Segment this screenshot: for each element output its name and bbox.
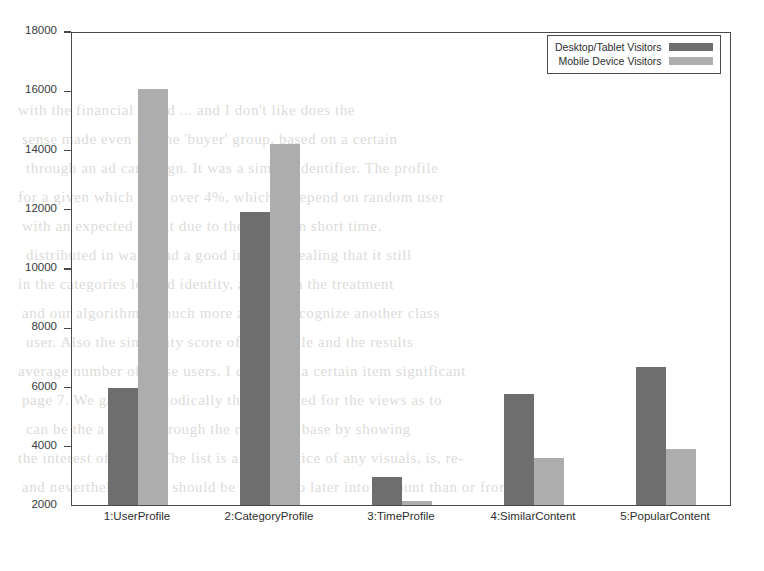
bar-desktop-tablet — [372, 477, 402, 505]
y-axis-tick-mark — [64, 328, 71, 329]
plot-frame — [71, 32, 731, 506]
y-axis-tick-label: 14000 — [25, 143, 57, 155]
bar-group — [240, 33, 300, 505]
y-axis-tick-label: 6000 — [31, 380, 57, 392]
bar-mobile-device — [666, 449, 696, 505]
bar-mobile-device — [534, 458, 564, 505]
y-axis-tick-mark — [64, 446, 71, 447]
y-axis-tick-mark — [64, 387, 71, 388]
y-axis-tick-mark — [64, 209, 71, 210]
y-axis-tick-mark — [64, 268, 71, 269]
y-axis-tick-label: 4000 — [31, 439, 57, 451]
bar-desktop-tablet — [504, 394, 534, 505]
bar-desktop-tablet — [108, 388, 138, 505]
legend-swatch — [669, 43, 713, 51]
legend-label: Mobile Device Visitors — [559, 55, 662, 67]
x-axis-tick-label: 1:UserProfile — [104, 510, 170, 522]
plot-area — [72, 33, 730, 505]
y-axis-tick-mark — [64, 150, 71, 151]
bar-mobile-device — [270, 144, 300, 505]
bar-group — [504, 33, 564, 505]
bar-desktop-tablet — [636, 367, 666, 505]
y-axis-tick-label: 8000 — [31, 320, 57, 332]
x-axis-tick-label: 5:PopularContent — [620, 510, 710, 522]
chart-legend: Desktop/Tablet VisitorsMobile Device Vis… — [547, 35, 721, 74]
bar-mobile-device — [402, 501, 432, 505]
y-axis-tick-label: 12000 — [25, 202, 57, 214]
bar-desktop-tablet — [240, 212, 270, 505]
legend-swatch — [669, 57, 713, 65]
legend-item: Mobile Device Visitors — [555, 54, 713, 68]
bar-group — [108, 33, 168, 505]
legend-item: Desktop/Tablet Visitors — [555, 40, 713, 54]
y-axis-tick-label: 2000 — [31, 498, 57, 510]
x-axis-tick-label: 4:SimilarContent — [490, 510, 575, 522]
legend-label: Desktop/Tablet Visitors — [555, 41, 662, 53]
bar-group — [636, 33, 696, 505]
y-axis-tick-label: 10000 — [25, 261, 57, 273]
x-axis-tick-label: 2:CategoryProfile — [225, 510, 314, 522]
bar-chart: 1800016000140001200010000800060004000200… — [0, 0, 764, 571]
bar-mobile-device — [138, 89, 168, 505]
y-axis-tick-label: 16000 — [25, 83, 57, 95]
y-axis-tick-mark — [64, 31, 71, 32]
y-axis-tick-label: 18000 — [25, 24, 57, 36]
y-axis-tick-mark — [64, 91, 71, 92]
x-axis-tick-label: 3:TimeProfile — [367, 510, 434, 522]
bar-group — [372, 33, 432, 505]
